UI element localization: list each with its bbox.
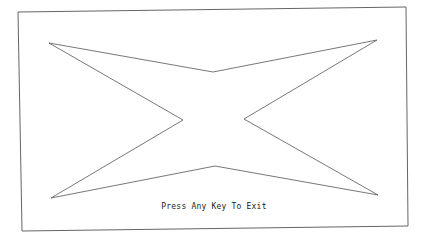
- exit-prompt: Press Any Key To Exit: [0, 202, 428, 211]
- four-point-star-shape: [49, 40, 378, 198]
- border-frame: [18, 7, 408, 231]
